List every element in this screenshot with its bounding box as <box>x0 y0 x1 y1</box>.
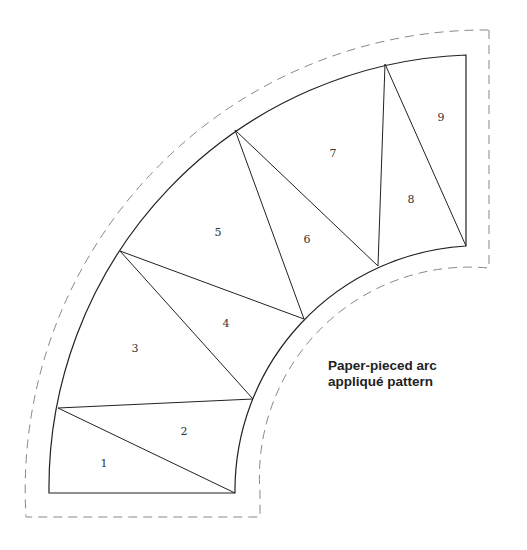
piece-label-5: 5 <box>215 226 222 239</box>
piece-label-9: 9 <box>438 111 445 124</box>
caption-line-1: Paper-pieced arc <box>328 358 437 374</box>
piece-label-3: 3 <box>132 342 139 355</box>
piece-label-7: 7 <box>330 147 337 160</box>
arc-pattern-diagram: 123456789 <box>0 0 527 550</box>
diagram-caption: Paper-pieced arc appliqué pattern <box>328 358 437 390</box>
piece-label-2: 2 <box>181 425 188 438</box>
caption-line-2: appliqué pattern <box>328 374 437 390</box>
piece-seams <box>58 64 466 493</box>
piece-label-4: 4 <box>223 317 230 330</box>
piece-label-6: 6 <box>304 233 311 246</box>
piece-labels: 123456789 <box>101 111 445 470</box>
seam-allowance-outline <box>25 30 489 517</box>
piece-label-8: 8 <box>408 193 415 206</box>
arc-outline <box>49 55 466 493</box>
piece-label-1: 1 <box>101 457 108 470</box>
